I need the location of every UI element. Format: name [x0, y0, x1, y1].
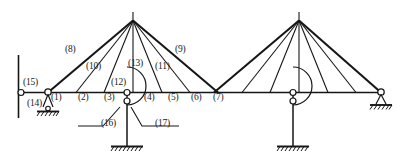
label-member-9: (9) [175, 45, 185, 55]
label-member-13: (13) [128, 59, 143, 69]
label-member-8: (8) [65, 45, 75, 55]
label-member-12: (12) [111, 78, 126, 88]
right-pin-hinge-circle [378, 89, 384, 95]
member-13-web [133, 21, 162, 93]
hinge-lower-right-center [290, 98, 296, 104]
right-pin-leg-b [381, 95, 386, 105]
truss-diagram-canvas [0, 0, 401, 164]
hinge-lower-left-center [124, 98, 130, 104]
label-member-10: (10) [86, 62, 101, 72]
label-member-16: (16) [101, 119, 116, 129]
label-member-7: (7) [213, 93, 223, 103]
label-member-3: (3) [104, 93, 114, 103]
member-11-web [133, 21, 190, 93]
right-rafter-left [214, 21, 299, 93]
hinge-upper-right-center [290, 90, 296, 96]
right-web-4 [299, 21, 356, 93]
label-member-17: (17) [155, 119, 170, 129]
label-member-2: (2) [78, 93, 88, 103]
label-member-1: (1) [51, 93, 61, 103]
label-member-11: (11) [155, 62, 170, 72]
hinge-upper-left-center [124, 90, 130, 96]
truss-diagram-figure: (15) (14) (1) (2) (3) (4) (5) (6) (7) (8… [0, 0, 401, 164]
right-web-2 [270, 21, 299, 93]
left-pin-lower-pivot [46, 106, 51, 111]
label-member-15: (15) [23, 78, 38, 88]
label-member-14: (14) [27, 99, 42, 109]
left-pin-leg-a [43, 95, 48, 108]
right-pin-leg-a [376, 95, 381, 105]
wall-hinge-circle [18, 90, 24, 96]
label-member-4: (4) [144, 93, 154, 103]
right-web-3 [299, 21, 328, 93]
right-web-1 [242, 21, 299, 93]
label-member-6: (6) [191, 93, 201, 103]
label-member-5: (5) [168, 93, 178, 103]
